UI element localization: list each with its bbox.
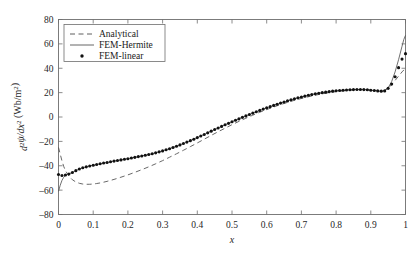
data-point-fem-linear [345, 88, 348, 91]
data-point-fem-linear [317, 92, 320, 95]
data-point-fem-linear [400, 58, 403, 61]
data-point-fem-linear [224, 123, 227, 126]
y-tick-label: 60 [44, 39, 54, 49]
data-point-fem-linear [112, 160, 115, 163]
data-point-fem-linear [119, 158, 122, 161]
data-point-fem-linear [362, 88, 365, 91]
data-point-fem-linear [144, 154, 147, 157]
y-tick-label: 0 [49, 112, 54, 122]
data-point-fem-linear [85, 165, 88, 168]
data-point-fem-linear [171, 146, 174, 149]
x-tick-label: 0.9 [365, 220, 377, 230]
x-tick-label: 0.2 [122, 220, 134, 230]
y-tick-label: –40 [38, 161, 54, 171]
data-point-fem-linear [262, 108, 265, 111]
data-point-fem-linear [348, 88, 351, 91]
data-point-fem-linear [241, 116, 244, 119]
x-tick-label: 0.8 [330, 220, 342, 230]
data-point-fem-linear [71, 171, 74, 174]
x-tick-label: 1 [403, 220, 408, 230]
data-point-fem-linear [102, 162, 105, 165]
legend-label-fem-linear: FEM-linear [99, 51, 144, 61]
data-point-fem-linear [296, 96, 299, 99]
data-point-fem-linear [210, 130, 213, 133]
data-point-fem-linear [99, 162, 102, 165]
data-point-fem-linear [140, 154, 143, 157]
x-axis-title: x [229, 234, 235, 245]
data-point-fem-linear [175, 145, 178, 148]
x-tick-label: 0.1 [87, 220, 99, 230]
data-point-fem-linear [154, 151, 157, 154]
data-point-fem-linear [147, 153, 150, 156]
data-point-fem-linear [355, 88, 358, 91]
data-point-fem-linear [220, 125, 223, 128]
y-tick-label: 20 [44, 88, 54, 98]
data-point-fem-linear [67, 172, 70, 175]
data-point-fem-linear [352, 88, 355, 91]
data-point-fem-linear [324, 91, 327, 94]
data-point-fem-linear [310, 93, 313, 96]
data-point-fem-linear [293, 97, 296, 100]
data-point-fem-linear [383, 89, 386, 92]
data-point-fem-linear [126, 157, 129, 160]
data-point-fem-linear [279, 102, 282, 105]
data-point-fem-linear [404, 52, 407, 55]
data-point-fem-linear [373, 89, 376, 92]
data-point-fem-linear [283, 100, 286, 103]
data-point-fem-linear [165, 148, 168, 151]
y-tick-label: –20 [38, 137, 54, 147]
data-point-fem-linear [64, 173, 67, 176]
data-point-fem-linear [359, 88, 362, 91]
figure-container: 00.10.20.30.40.50.60.70.80.91–80–60–40–2… [0, 0, 419, 256]
data-point-fem-linear [88, 164, 91, 167]
y-tick-label: –60 [38, 186, 54, 196]
x-tick-label: 0 [56, 220, 61, 230]
data-point-fem-linear [230, 120, 233, 123]
data-point-fem-linear [272, 104, 275, 107]
y-tick-label: 80 [44, 15, 54, 25]
data-point-fem-linear [57, 173, 60, 176]
data-point-fem-linear [341, 89, 344, 92]
data-point-fem-linear [161, 149, 164, 152]
data-point-fem-linear [227, 122, 230, 125]
data-point-fem-linear [196, 136, 199, 139]
data-point-fem-linear [369, 89, 372, 92]
data-point-fem-linear [106, 161, 109, 164]
y-axis-title: d2ψ/dx2 (Wb/m2) [9, 83, 29, 151]
data-point-fem-linear [189, 139, 192, 142]
data-point-fem-linear [137, 155, 140, 158]
data-point-fem-linear [199, 134, 202, 137]
data-point-fem-linear [109, 160, 112, 163]
data-point-fem-linear [133, 156, 136, 159]
data-point-fem-linear [300, 95, 303, 98]
data-point-fem-linear [258, 109, 261, 112]
data-point-fem-linear [203, 133, 206, 136]
data-point-fem-linear [151, 152, 154, 155]
legend-label-fem-hermite: FEM-Hermite [99, 40, 153, 50]
data-point-fem-linear [265, 106, 268, 109]
x-tick-label: 0.4 [191, 220, 203, 230]
data-point-fem-linear [168, 147, 171, 150]
data-point-fem-linear [78, 167, 81, 170]
data-point-fem-linear [158, 150, 161, 153]
data-point-fem-linear [338, 89, 341, 92]
data-point-fem-linear [95, 163, 98, 166]
data-point-fem-linear [182, 142, 185, 145]
y-tick-label: 40 [44, 64, 54, 74]
data-point-fem-linear [380, 90, 383, 93]
data-point-fem-linear [192, 138, 195, 141]
data-point-fem-linear [178, 143, 181, 146]
data-point-fem-linear [185, 141, 188, 144]
data-point-fem-linear [321, 91, 324, 94]
data-point-fem-linear [60, 174, 63, 177]
data-point-fem-linear [116, 159, 119, 162]
data-point-fem-linear [92, 164, 95, 167]
data-point-fem-linear [394, 75, 397, 78]
data-point-fem-linear [213, 128, 216, 131]
legend-label-analytical: Analytical [99, 29, 139, 39]
y-tick-label: –80 [38, 210, 54, 220]
data-point-fem-linear [248, 113, 251, 116]
data-point-fem-linear [376, 89, 379, 92]
data-point-fem-linear [244, 114, 247, 117]
data-point-fem-linear [255, 110, 258, 113]
